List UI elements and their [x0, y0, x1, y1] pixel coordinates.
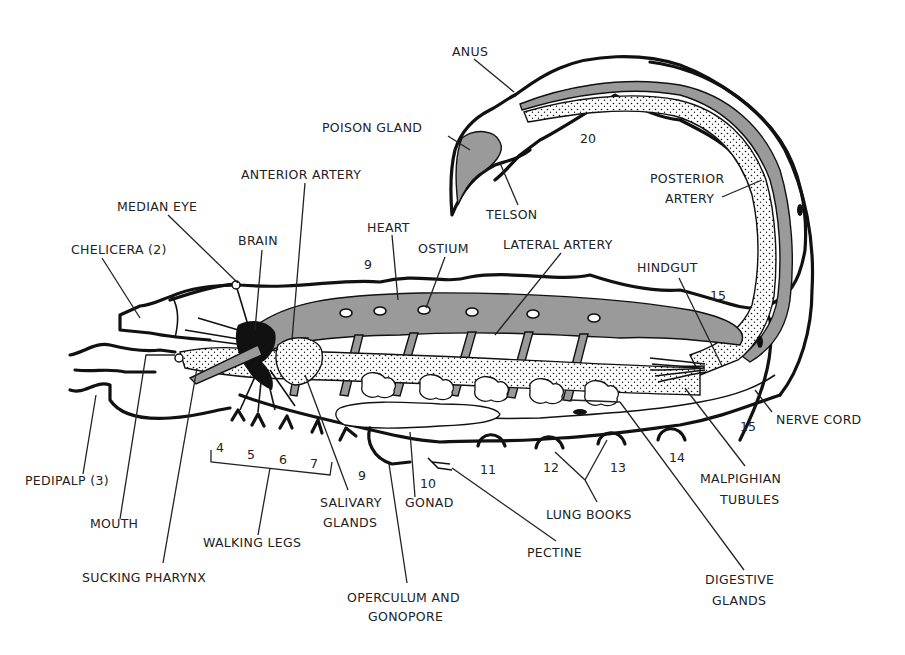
lung-books: [478, 429, 685, 448]
segment-number-15-top: 15: [710, 288, 726, 303]
segment-number-15-bottom: 15: [740, 419, 756, 434]
label-telson: TELSON: [485, 207, 537, 222]
label-operculum-1: OPERCULUM AND: [347, 590, 460, 605]
label-anterior-artery: ANTERIOR ARTERY: [241, 167, 361, 182]
segment-number-10: 10: [420, 476, 436, 491]
label-lung-books: LUNG BOOKS: [546, 507, 632, 522]
leg-number-7: 7: [310, 456, 318, 471]
label-malpighian-1: MALPIGHIAN: [700, 471, 781, 486]
segment-number-9-bottom: 9: [358, 468, 366, 483]
label-sucking-pharynx: SUCKING PHARYNX: [82, 570, 206, 585]
segment-number-14: 14: [669, 450, 685, 465]
label-anus: ANUS: [452, 44, 488, 59]
scorpion-anatomy-diagram: ANUS POISON GLAND TELSON ANTERIOR ARTERY…: [0, 0, 905, 655]
label-posterior-artery-1: POSTERIOR: [650, 171, 724, 186]
leg-number-4: 4: [216, 440, 224, 455]
label-brain: BRAIN: [238, 233, 278, 248]
label-salivary-glands-2: GLANDS: [323, 515, 377, 530]
segment-number-13: 13: [610, 460, 626, 475]
label-malpighian-2: TUBULES: [719, 492, 779, 507]
label-pedipalp: PEDIPALP (3): [25, 473, 109, 488]
label-lateral-artery: LATERAL ARTERY: [503, 237, 613, 252]
label-nerve-cord: NERVE CORD: [776, 412, 862, 427]
label-heart: HEART: [367, 220, 410, 235]
label-salivary-glands-1: SALIVARY: [320, 495, 382, 510]
label-poison-gland: POISON GLAND: [322, 120, 422, 135]
label-posterior-artery-2: ARTERY: [665, 191, 714, 206]
label-ostium: OSTIUM: [418, 241, 469, 256]
label-chelicera: CHELICERA (2): [71, 242, 167, 257]
segment-number-12: 12: [543, 460, 559, 475]
segment-number-20: 20: [580, 131, 596, 146]
label-median-eye: MEDIAN EYE: [117, 199, 197, 214]
leg-number-5: 5: [247, 447, 255, 462]
leg-number-6: 6: [279, 452, 287, 467]
label-digestive-1: DIGESTIVE: [705, 572, 774, 587]
label-pectine: PECTINE: [527, 545, 582, 560]
label-gonad: GONAD: [405, 495, 454, 510]
label-digestive-2: GLANDS: [712, 593, 766, 608]
label-walking-legs: WALKING LEGS: [203, 535, 301, 550]
label-hindgut: HINDGUT: [637, 260, 698, 275]
label-operculum-2: GONOPORE: [368, 609, 443, 624]
segment-number-9-top: 9: [364, 257, 372, 272]
label-mouth: MOUTH: [90, 516, 138, 531]
segment-number-11: 11: [480, 462, 496, 477]
